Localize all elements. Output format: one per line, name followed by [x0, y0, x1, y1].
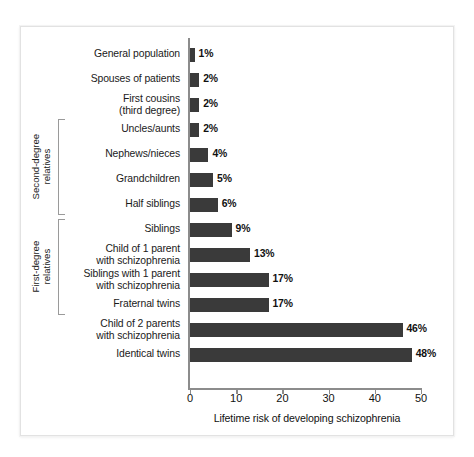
- bar-row: Uncles/aunts2%: [0, 117, 474, 142]
- x-axis-tick-label: 20: [267, 392, 297, 404]
- bar-row: Grandchildren5%: [0, 167, 474, 192]
- category-label-line: Child of 2 parents: [20, 318, 180, 329]
- bar-row: Siblings with 1 parentwith schizophrenia…: [0, 267, 474, 292]
- chart-figure: General population1%Spouses of patients2…: [0, 0, 474, 457]
- x-axis-tick-label: 40: [360, 392, 390, 404]
- bar: [190, 198, 218, 212]
- x-axis-tick-label: 0: [175, 392, 205, 404]
- bar-value-label: 9%: [236, 223, 251, 234]
- bar: [190, 148, 208, 162]
- category-label-line: with schizophrenia: [20, 330, 180, 341]
- bar: [190, 123, 199, 137]
- x-axis-tick-label: 10: [221, 392, 251, 404]
- bar: [190, 98, 199, 112]
- bar-row: Half siblings6%: [0, 192, 474, 217]
- category-label: Spouses of patients: [20, 73, 180, 84]
- category-label: General population: [20, 48, 180, 59]
- bar-row: Spouses of patients2%: [0, 67, 474, 92]
- bar-row: Child of 2 parentswith schizophrenia46%: [0, 317, 474, 342]
- bar-row: Nephews/nieces4%: [0, 142, 474, 167]
- bar: [190, 298, 269, 312]
- bar: [190, 173, 213, 187]
- bar-value-label: 17%: [273, 298, 293, 309]
- bar-row: Child of 1 parentwith schizophrenia13%: [0, 242, 474, 267]
- bar-row: General population1%: [0, 42, 474, 67]
- bar-row: Fraternal twins17%: [0, 292, 474, 317]
- bar-value-label: 2%: [203, 123, 218, 134]
- group-bracket: [58, 119, 65, 215]
- bar: [190, 323, 403, 337]
- group-label-line: First-degree: [31, 217, 42, 317]
- bar: [190, 248, 250, 262]
- bar-row: Identical twins48%: [0, 342, 474, 367]
- bar-value-label: 2%: [203, 98, 218, 109]
- bar-value-label: 4%: [212, 148, 227, 159]
- bar-value-label: 5%: [217, 173, 232, 184]
- category-label-line: First cousins: [20, 93, 180, 104]
- bar: [190, 273, 269, 287]
- bar-value-label: 1%: [199, 48, 214, 59]
- category-label-line: (third degree): [20, 105, 180, 116]
- group-label-line: relatives: [42, 217, 53, 317]
- bar-value-label: 13%: [254, 248, 274, 259]
- x-axis-tick-label: 50: [406, 392, 436, 404]
- bar-chart-plot: General population1%Spouses of patients2…: [0, 0, 474, 457]
- group-label-line: Second-degree: [31, 117, 42, 217]
- x-axis-line: [188, 388, 422, 390]
- category-label: Identical twins: [20, 348, 180, 359]
- bar-row: First cousins(third degree)2%: [0, 92, 474, 117]
- bar: [190, 223, 232, 237]
- bar-row: Siblings9%: [0, 217, 474, 242]
- group-label: First-degreerelatives: [31, 217, 52, 317]
- bar-value-label: 2%: [203, 73, 218, 84]
- group-label-line: relatives: [42, 117, 53, 217]
- category-label: Child of 2 parentswith schizophrenia: [20, 318, 180, 341]
- bar: [190, 48, 195, 62]
- group-bracket: [58, 219, 65, 315]
- bar-value-label: 48%: [416, 348, 436, 359]
- bar: [190, 73, 199, 87]
- bar: [190, 348, 412, 362]
- category-label: First cousins(third degree): [20, 93, 180, 116]
- x-axis-tick-label: 30: [314, 392, 344, 404]
- bar-value-label: 6%: [222, 198, 237, 209]
- group-label: Second-degreerelatives: [31, 117, 52, 217]
- bar-value-label: 46%: [407, 323, 427, 334]
- x-axis-title: Lifetime risk of developing schizophreni…: [188, 412, 426, 424]
- bar-value-label: 17%: [273, 273, 293, 284]
